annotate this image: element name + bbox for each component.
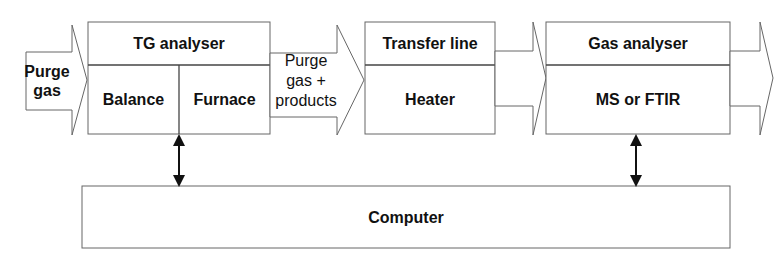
transfer-to-gas-arrow-shape [495, 22, 546, 135]
balance-label: Balance [88, 65, 179, 134]
flow-line-2: gas + [286, 71, 326, 91]
flow-line-3: products [275, 91, 336, 111]
gas-analyser-title: Gas analyser [546, 22, 730, 65]
flow-arrow-label: Purge gas + products [268, 45, 344, 117]
tg-analyser-title: TG analyser [88, 22, 270, 65]
flow-line-1: Purge [285, 51, 328, 71]
transfer-line-title: Transfer line [365, 22, 495, 65]
ms-ftir-label: MS or FTIR [546, 65, 730, 134]
furnace-label: Furnace [179, 65, 270, 134]
inlet-arrow-label: Purge gas [22, 52, 72, 110]
computer-label: Computer [82, 186, 730, 248]
inlet-line-2: gas [33, 81, 61, 100]
inlet-line-1: Purge [24, 62, 69, 81]
outlet-arrow-shape [730, 22, 773, 135]
heater-label: Heater [365, 65, 495, 134]
